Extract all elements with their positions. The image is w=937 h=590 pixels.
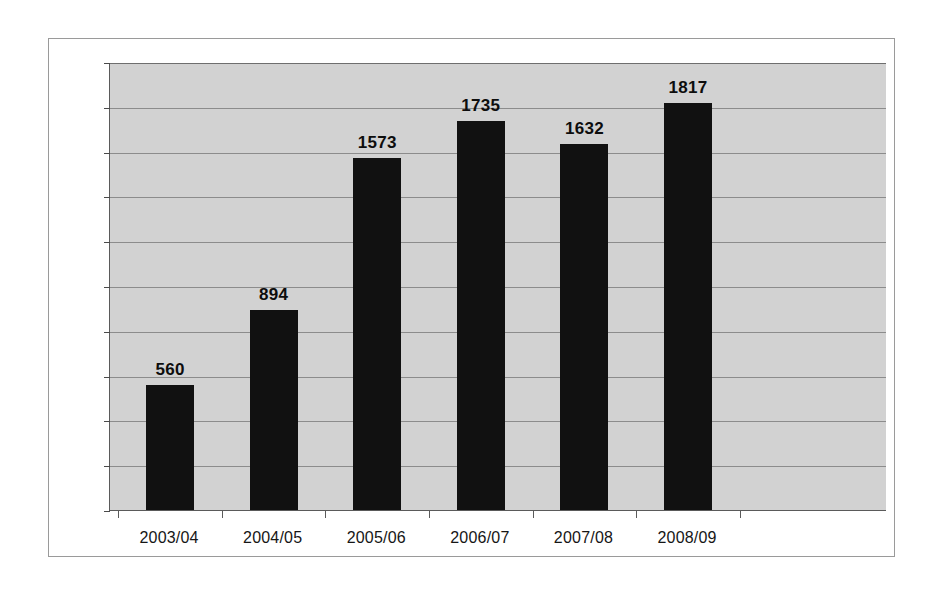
x-axis-tick-label: 2005/06 [347, 529, 406, 547]
chart-frame: 5608941573173516321817 2003/042004/05200… [48, 38, 895, 557]
x-axis-tick-label: 2008/09 [657, 529, 716, 547]
x-axis-tick-label: 2007/08 [554, 529, 613, 547]
x-axis-tick-labels: 2003/042004/052005/062006/072007/082008/… [49, 39, 896, 558]
x-axis-tick-label: 2004/05 [243, 529, 302, 547]
x-axis-tick-label: 2003/04 [139, 529, 198, 547]
x-axis-tick-label: 2006/07 [450, 529, 509, 547]
